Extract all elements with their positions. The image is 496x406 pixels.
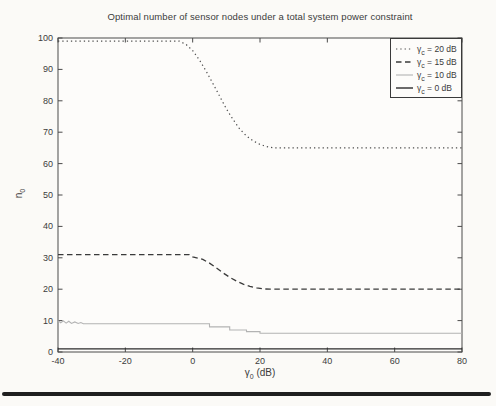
y-axis-label: n0 [13, 174, 24, 214]
legend-line-sample [395, 70, 414, 80]
y-tick-label: 80 [43, 96, 53, 106]
legend-item: γc = 20 dB [395, 42, 457, 55]
x-tick-label: 0 [190, 356, 195, 366]
legend-line-sample [395, 44, 414, 54]
y-tick-label: 70 [43, 127, 53, 137]
legend: γc = 20 dBγc = 15 dBγc = 10 dBγc = 0 dB [390, 38, 462, 98]
chart-title: Optimal number of sensor nodes under a t… [58, 11, 462, 22]
x-axis-label: γ0 (dB) [58, 367, 462, 378]
y-tick-label: 40 [43, 221, 53, 231]
legend-label: γc = 10 dB [417, 70, 457, 80]
y-tick-label: 10 [43, 316, 53, 326]
legend-label: γc = 0 dB [417, 83, 452, 93]
y-tick-label: 0 [48, 347, 53, 357]
x-tick-label: -40 [51, 356, 64, 366]
y-tick-label: 100 [38, 33, 53, 43]
x-tick-label: 60 [390, 356, 400, 366]
y-tick-label: 60 [43, 159, 53, 169]
legend-line-sample [395, 57, 414, 67]
y-tick-label: 90 [43, 64, 53, 74]
y-tick-label: 20 [43, 284, 53, 294]
y-tick-label: 50 [43, 190, 53, 200]
x-tick-label: -20 [119, 356, 132, 366]
page: Optimal number of sensor nodes under a t… [0, 0, 496, 406]
legend-item: γc = 0 dB [395, 81, 457, 94]
x-tick-label: 40 [322, 356, 332, 366]
x-tick-label: 20 [255, 356, 265, 366]
legend-item: γc = 10 dB [395, 68, 457, 81]
legend-label: γc = 20 dB [417, 44, 457, 54]
legend-item: γc = 15 dB [395, 55, 457, 68]
y-tick-label: 30 [43, 253, 53, 263]
legend-line-sample [395, 83, 414, 93]
bottom-rule [2, 392, 491, 396]
legend-label: γc = 15 dB [417, 57, 457, 67]
x-tick-label: 80 [457, 356, 467, 366]
